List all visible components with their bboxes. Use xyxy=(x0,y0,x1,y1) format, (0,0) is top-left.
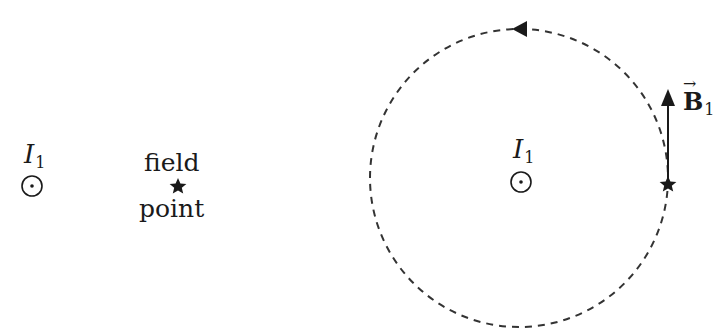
current-subscript: 1 xyxy=(524,148,534,167)
vector-arrow-icon: → xyxy=(683,76,696,92)
right-field-point-star-icon xyxy=(660,176,677,192)
current-symbol: I xyxy=(513,134,523,164)
vector-subscript: 1 xyxy=(704,100,714,119)
magnetic-field-line-circle xyxy=(370,29,668,327)
current-subscript: 1 xyxy=(35,153,45,172)
left-field-point-star-icon xyxy=(170,178,187,194)
b-field-vector-label: → B1 xyxy=(683,90,714,118)
right-current-label: I1 xyxy=(513,136,534,166)
field-point-label-bottom: point xyxy=(139,196,204,221)
field-direction-arrow-icon xyxy=(512,21,527,37)
left-wire-out-of-page-icon xyxy=(22,176,42,196)
right-wire-out-of-page-icon xyxy=(511,172,531,192)
left-current-label: I1 xyxy=(24,141,45,171)
current-symbol: I xyxy=(24,139,34,169)
field-point-label-top: field xyxy=(144,150,199,175)
diagram-canvas xyxy=(0,0,720,331)
b-field-vector-arrow xyxy=(661,89,675,181)
